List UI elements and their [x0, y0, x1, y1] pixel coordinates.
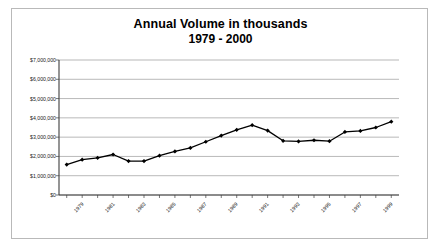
chart-container: Annual Volume in thousands 1979 - 2000 $…	[11, 8, 428, 239]
x-axis-tick-label: 1987	[196, 201, 208, 213]
x-axis-tick-label: 1995	[319, 201, 331, 213]
x-axis-labels: 1979198119831985198719891991199319951997…	[12, 9, 429, 240]
x-axis-tick-label: 1989	[227, 201, 239, 213]
x-axis-tick-label: 1981	[103, 201, 115, 213]
x-axis-tick-label: 1991	[258, 201, 270, 213]
x-axis-tick-label: 1979	[72, 201, 84, 213]
x-axis-tick-label: 1993	[288, 201, 300, 213]
x-axis-tick-label: 1983	[134, 201, 146, 213]
x-axis-tick-label: 1999	[381, 201, 393, 213]
x-axis-tick-label: 1997	[350, 201, 362, 213]
x-axis-tick-label: 1985	[165, 201, 177, 213]
